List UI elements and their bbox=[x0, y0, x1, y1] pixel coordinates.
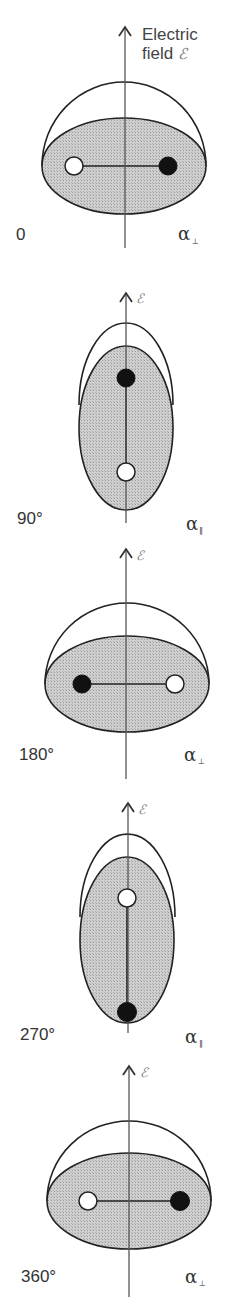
angle-label: 180° bbox=[19, 745, 54, 764]
polarizability-subscript: ⊥ bbox=[198, 757, 205, 766]
panel-180-degrees: ℰ 180° α ⊥ bbox=[19, 548, 209, 779]
filled-atom bbox=[118, 1003, 137, 1022]
electric-field-label: Electric bbox=[142, 25, 198, 44]
polarizability-subscript: ∥ bbox=[199, 1039, 203, 1048]
field-symbol: ℰ bbox=[136, 291, 145, 306]
field-symbol: ℰ bbox=[140, 1065, 149, 1080]
open-atom bbox=[79, 1192, 97, 1210]
polarizability-rotation-diagram: Electric field ℰ 0 α ⊥ ℰ 90° α ∥ ℰ 180° … bbox=[0, 0, 228, 1315]
filled-atom bbox=[159, 157, 177, 175]
polarizability-label: α bbox=[178, 223, 190, 244]
open-atom bbox=[166, 675, 184, 693]
panel-90-degrees: ℰ 90° α ∥ bbox=[17, 291, 203, 535]
angle-label: 0 bbox=[16, 225, 25, 244]
panel-270-degrees: ℰ 270° α ∥ bbox=[20, 802, 203, 1048]
open-atom bbox=[65, 157, 83, 175]
polarizability-label: α bbox=[184, 744, 196, 765]
electric-field-label-line2: field ℰ bbox=[142, 44, 189, 63]
field-symbol: ℰ bbox=[136, 548, 145, 563]
polarizability-subscript: ⊥ bbox=[192, 237, 199, 246]
polarizability-label: α bbox=[185, 1266, 197, 1287]
angle-label: 270° bbox=[20, 1025, 55, 1044]
filled-atom bbox=[73, 675, 91, 693]
polarizability-subscript: ∥ bbox=[199, 526, 203, 535]
polarizability-label: α bbox=[185, 1026, 197, 1047]
angle-label: 360° bbox=[21, 1267, 56, 1286]
open-atom bbox=[117, 463, 135, 481]
filled-atom bbox=[171, 1192, 190, 1211]
polarizability-subscript: ⊥ bbox=[199, 1279, 206, 1288]
angle-label: 90° bbox=[17, 509, 43, 528]
open-atom bbox=[118, 889, 136, 907]
polarizability-label: α bbox=[186, 513, 198, 534]
panel-0-degrees: Electric field ℰ 0 α ⊥ bbox=[16, 25, 206, 248]
filled-atom bbox=[117, 369, 135, 387]
panel-360-degrees: ℰ 360° α ⊥ bbox=[21, 1065, 211, 1297]
field-symbol: ℰ bbox=[138, 802, 147, 817]
